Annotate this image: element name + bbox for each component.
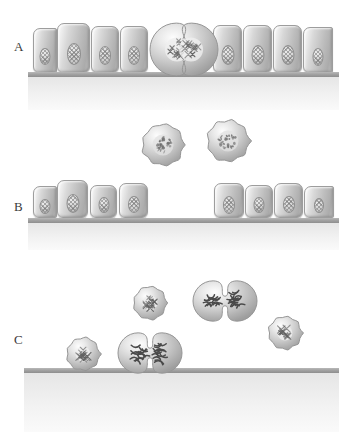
chromatin (179, 37, 203, 61)
cell-nucleus (221, 45, 234, 65)
epithelial-cell (91, 26, 119, 73)
cell-nucleus (223, 196, 235, 214)
cell-nucleus (281, 45, 294, 65)
epithelial-cell (273, 25, 302, 73)
sub-basement-tissue (28, 223, 339, 250)
rounded-mitotic-cell (263, 311, 307, 355)
epithelial-cell (57, 23, 90, 73)
panel-b (0, 110, 339, 250)
dividing-cell (190, 278, 260, 324)
cell-nucleus (283, 196, 295, 213)
cell-nucleus (99, 46, 111, 65)
rounded-mitotic-cell (201, 114, 255, 168)
panel-c (0, 250, 339, 432)
cell-nucleus (314, 198, 324, 213)
cell-membrane (118, 333, 182, 373)
cell-nucleus (251, 45, 264, 65)
cell-nucleus (98, 197, 109, 213)
basement-membrane (28, 218, 339, 223)
panel-a (0, 0, 339, 110)
sub-basement-tissue (28, 77, 339, 110)
epithelial-cell (90, 185, 117, 218)
rounded-mitotic-cell (136, 118, 190, 172)
rounded-mitotic-cell (61, 332, 105, 376)
cell-membrane (193, 281, 257, 321)
cell-nucleus (40, 199, 51, 214)
chromatin (152, 134, 173, 155)
panel-label-c: C (14, 332, 23, 348)
panel-label-a: A (14, 39, 24, 55)
figure-root: ABC (0, 0, 339, 432)
epithelial-cell (119, 183, 148, 218)
dividing-cell (115, 330, 185, 376)
epithelial-cell (57, 180, 88, 218)
epithelial-cell (33, 28, 57, 73)
epithelial-cell (33, 186, 57, 218)
sub-basement-tissue (24, 373, 339, 432)
epithelial-cell (214, 183, 244, 218)
cell-nucleus (128, 196, 140, 213)
epithelial-cell (243, 25, 272, 73)
epithelial-cell (274, 183, 303, 218)
dividing-cell (147, 20, 221, 79)
cell-nucleus (67, 43, 81, 65)
epithelial-cell (303, 27, 333, 73)
cell-nucleus (313, 48, 324, 66)
panel-label-b: B (14, 199, 23, 215)
cell-nucleus (40, 48, 51, 65)
epithelial-cell (120, 26, 148, 73)
cell-nucleus (254, 197, 265, 213)
epithelial-cell (245, 185, 273, 218)
epithelial-cell (304, 186, 334, 218)
cell-nucleus (66, 194, 79, 213)
cell-nucleus (128, 46, 140, 65)
rounded-mitotic-cell (128, 281, 172, 325)
